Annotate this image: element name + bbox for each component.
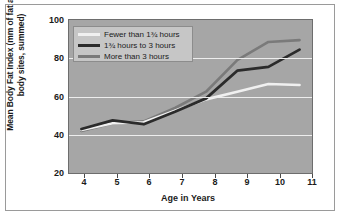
series-line-fewer-than-1-3-4-hours: [81, 84, 299, 130]
legend-item: More than 3 hours: [76, 51, 192, 62]
y-tick-label: 100: [38, 15, 64, 25]
gridline-40: [69, 135, 312, 136]
legend-label: 1¾ hours to 3 hours: [104, 40, 175, 51]
legend-item: 1¾ hours to 3 hours: [76, 40, 192, 51]
legend-swatch-fewer-than-1-3-4-hours: [78, 33, 100, 36]
chart-legend: Fewer than 1¾ hours 1¾ hours to 3 hours …: [73, 26, 193, 62]
y-axis-title: Mean Body Fat Index (mm of fat at five b…: [5, 0, 35, 135]
legend-swatch-1-3-4-hours-to-3-hours: [78, 44, 100, 47]
x-tick-label: 7: [172, 177, 192, 187]
x-tick-label: 4: [74, 177, 94, 187]
y-tick-label: 80: [38, 53, 64, 63]
y-tick-label: 20: [38, 168, 64, 178]
y-tick-label: 40: [38, 130, 64, 140]
x-tick-label: 11: [302, 177, 322, 187]
x-axis-title: Age in Years: [60, 193, 316, 203]
legend-swatch-more-than-3-hours: [78, 55, 100, 58]
x-tick-label: 9: [237, 177, 257, 187]
gridline-60: [69, 97, 312, 98]
y-tick-label: 60: [38, 92, 64, 102]
x-tick-label: 6: [139, 177, 159, 187]
plot-area: Fewer than 1¾ hours 1¾ hours to 3 hours …: [68, 19, 313, 174]
legend-item: Fewer than 1¾ hours: [76, 29, 192, 40]
chart-figure: Mean Body Fat Index (mm of fat at five b…: [0, 0, 340, 216]
x-tick-label: 5: [107, 177, 127, 187]
x-tick-label: 8: [205, 177, 225, 187]
x-tick-label: 10: [270, 177, 290, 187]
legend-label: Fewer than 1¾ hours: [104, 29, 180, 40]
legend-label: More than 3 hours: [104, 51, 169, 62]
